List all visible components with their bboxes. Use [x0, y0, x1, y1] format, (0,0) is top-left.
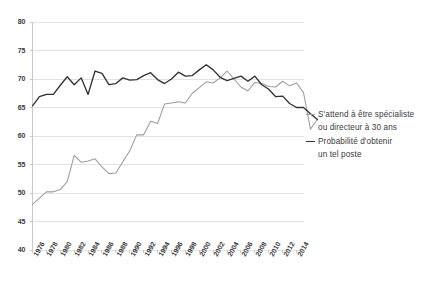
legend-line-swatch-dark — [306, 135, 315, 148]
y-tick-label-45: 45 — [10, 218, 26, 226]
y-tick-label-65: 65 — [10, 104, 26, 112]
series-line-0 — [33, 71, 318, 204]
series-line-1 — [33, 65, 318, 120]
y-tick-label-70: 70 — [10, 75, 26, 83]
legend-item-expects-specialist: S'attend à être spécialiste ou directeur… — [306, 108, 444, 134]
y-tick-label-60: 60 — [10, 132, 26, 140]
legend-label-line1-1: Probabilité d'obtenir — [318, 135, 392, 148]
legend-item-probability: Probabilité d'obtenir un tel poste — [306, 135, 444, 161]
axis-lines — [30, 22, 297, 253]
y-tick-label-80: 80 — [10, 18, 26, 26]
y-tick-label-55: 55 — [10, 161, 26, 169]
y-tick-label-50: 50 — [10, 189, 26, 197]
y-tick-label-75: 75 — [10, 47, 26, 55]
data-series — [33, 65, 318, 205]
legend-label-line2-1: un tel poste — [318, 148, 444, 161]
chart-container: 404550556065707580 197619781980198219841… — [0, 0, 445, 284]
legend-label-line2-0: ou directeur à 30 ans — [318, 121, 444, 134]
chart-legend: S'attend à être spécialiste ou directeur… — [306, 108, 444, 162]
y-tick-label-40: 40 — [10, 246, 26, 254]
legend-line-swatch-light — [306, 108, 315, 121]
gridlines — [33, 22, 304, 250]
legend-label-line1-0: S'attend à être spécialiste — [318, 108, 414, 121]
